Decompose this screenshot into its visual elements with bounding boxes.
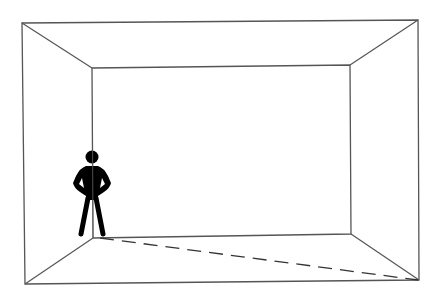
floor-dashed-diagonal bbox=[100, 238, 418, 280]
room-diagram: Line drawing of an empty room in one-poi… bbox=[0, 0, 441, 299]
figure-left-leg bbox=[81, 198, 88, 234]
figure-head bbox=[86, 151, 99, 164]
room-perspective-edges bbox=[22, 20, 419, 284]
room-outer-frame bbox=[22, 20, 419, 284]
figure-right-leg bbox=[96, 198, 103, 234]
figure-torso-arms bbox=[73, 166, 111, 200]
room-perspective-drawing bbox=[0, 0, 441, 299]
human-figure bbox=[73, 151, 111, 235]
room-back-wall bbox=[92, 65, 351, 238]
